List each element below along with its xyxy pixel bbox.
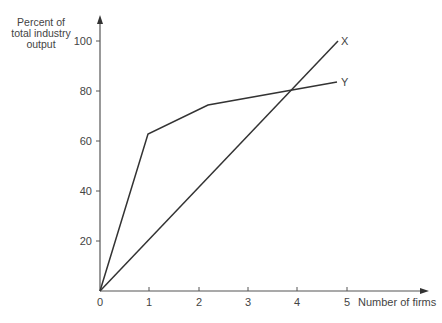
y-axis-title: Percent of total industry output	[11, 16, 71, 50]
x-axis-title: Number of firms	[358, 296, 437, 308]
series-x-label: X	[341, 35, 349, 47]
x-tick-5: 5	[344, 296, 350, 308]
series-y-line	[100, 82, 337, 291]
y-tick-80: 80	[80, 85, 92, 97]
y-tick-60: 60	[80, 135, 92, 147]
x-tick-4: 4	[294, 296, 300, 308]
y-tick-labels: 100 80 60 40 20	[74, 35, 92, 247]
series-y-label: Y	[341, 76, 349, 88]
y-tick-20: 20	[80, 235, 92, 247]
y-tick-100: 100	[74, 35, 92, 47]
chart: 100 80 60 40 20 0 1 2 3 4 5 Number of fi…	[0, 0, 442, 323]
x-axis-arrow-icon	[420, 288, 429, 294]
y-axis-arrow-icon	[97, 15, 103, 24]
x-tick-2: 2	[196, 296, 202, 308]
y-axis-title-line3: output	[26, 38, 55, 50]
series-x-line	[100, 41, 338, 291]
x-tick-0: 0	[97, 296, 103, 308]
x-tick-labels: 0 1 2 3 4 5	[97, 296, 350, 308]
x-tick-1: 1	[146, 296, 152, 308]
y-tick-40: 40	[80, 185, 92, 197]
x-tick-3: 3	[245, 296, 251, 308]
